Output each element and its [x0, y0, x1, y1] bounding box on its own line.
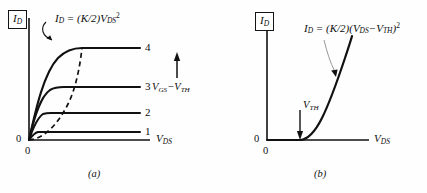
square-law-curve	[267, 36, 352, 140]
y-axis-label-box-a: ID	[8, 10, 27, 29]
y-axis-label-sub-b: D	[264, 19, 269, 28]
formula-rhs-b: V	[376, 22, 383, 34]
formula-label-b: ID = (K/2)(VDS−VTH)2	[304, 22, 400, 35]
sweep-label-part2-sub: TH	[181, 86, 190, 94]
x-axis-label-a: VDS	[156, 133, 172, 145]
threshold-label-b: VTH	[303, 100, 319, 112]
curve-label-2: 2	[145, 107, 151, 118]
origin-label-x-a: 0	[25, 146, 30, 157]
y-axis-label-sub-a: D	[17, 17, 22, 26]
chart-panel-b: ID ID = (K/2)(VDS−VTH)2 VTH VDS 0 0 (b)	[214, 0, 427, 193]
threshold-label-sub-b: TH	[309, 104, 318, 112]
sweep-label-part1-sub: GS	[158, 86, 167, 94]
curve-label-4: 4	[145, 42, 151, 53]
panel-caption-a: (a)	[88, 168, 100, 179]
formula-eq-b: = (K/2)(V	[313, 22, 360, 34]
x-axis-label-b: VDS	[374, 133, 390, 145]
curve-label-1: 1	[145, 126, 151, 137]
formula-rhs-sub-a: DS	[107, 16, 116, 25]
formula-rhs-sup-a: 2	[116, 11, 120, 20]
formula-eq-a: = (K/2)V	[64, 12, 107, 24]
origin-label-x-b: 0	[263, 146, 268, 157]
origin-label-y-b: 0	[254, 134, 259, 145]
sweep-arrow-head	[174, 52, 180, 61]
panel-a-graphics	[0, 0, 214, 193]
curve-level-2	[29, 113, 140, 140]
y-axis-label-box-b: ID	[255, 12, 274, 31]
chart-panel-a: ID ID = (K/2)VDS2 4 3 2 1 VGS−VTH VDS 0 …	[0, 0, 214, 193]
sweep-arrow-label: VGS−VTH	[152, 82, 190, 94]
formula-mid-sub-b: DS	[360, 26, 369, 35]
origin-label-y-a: 0	[16, 134, 21, 145]
formula-leader-arrowhead-b	[331, 70, 337, 78]
formula-leader-line-b	[324, 40, 335, 72]
figure-container: ID ID = (K/2)VDS2 4 3 2 1 VGS−VTH VDS 0 …	[0, 0, 427, 193]
curve-label-3: 3	[145, 81, 151, 92]
formula-label-a: ID = (K/2)VDS2	[55, 12, 120, 25]
formula-sup-b: 2	[396, 21, 400, 30]
x-axis-label-sub-b: DS	[381, 137, 390, 146]
panel-caption-b: (b)	[314, 168, 326, 179]
x-axis-label-sub-a: DS	[163, 137, 172, 146]
